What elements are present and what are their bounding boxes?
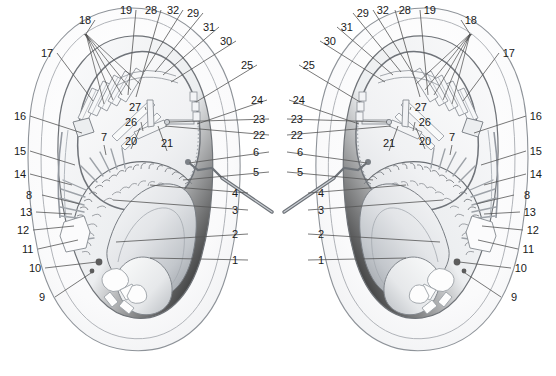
callout-label-25: 25 [241, 59, 253, 71]
callout-label-24: 24 [293, 94, 305, 106]
anatomical-diagram-svg: 1234562223242530312932281918171615148131… [0, 0, 556, 376]
callout-label-31: 31 [341, 21, 353, 33]
callout-label-28: 28 [399, 4, 411, 16]
callout-label-7: 7 [449, 131, 455, 143]
callout-label-22: 22 [291, 129, 303, 141]
callout-label-20: 20 [125, 135, 137, 147]
callout-label-17: 17 [503, 47, 515, 59]
callout-label-8: 8 [524, 189, 530, 201]
callout-label-32: 32 [377, 4, 389, 16]
callout-label-13: 13 [20, 206, 32, 218]
callout-label-5: 5 [297, 166, 303, 178]
callout-label-19: 19 [120, 4, 132, 16]
callout-label-16: 16 [530, 110, 542, 122]
callout-label-23: 23 [253, 113, 265, 125]
callout-label-24: 24 [251, 94, 263, 106]
callout-label-2: 2 [232, 228, 238, 240]
callout-label-15: 15 [530, 145, 542, 157]
left-specimen-panel [28, 8, 272, 351]
callout-label-18: 18 [465, 14, 477, 26]
callout-label-16: 16 [14, 110, 26, 122]
callout-label-15: 15 [14, 145, 26, 157]
callout-label-28: 28 [145, 4, 157, 16]
callout-label-10: 10 [29, 262, 41, 274]
callout-label-23: 23 [291, 113, 303, 125]
callout-label-27: 27 [415, 101, 427, 113]
callout-label-7: 7 [101, 131, 107, 143]
callout-label-12: 12 [17, 224, 29, 236]
callout-label-11: 11 [523, 243, 534, 255]
callout-label-21: 21 [161, 137, 173, 149]
callout-label-29: 29 [187, 7, 199, 19]
callout-label-4: 4 [318, 187, 324, 199]
callout-label-32: 32 [167, 4, 179, 16]
callout-label-14: 14 [14, 168, 26, 180]
right-specimen-panel [284, 8, 528, 351]
callout-label-26: 26 [125, 116, 137, 128]
callout-label-4: 4 [232, 187, 238, 199]
callout-label-29: 29 [357, 7, 369, 19]
callout-label-31: 31 [203, 21, 215, 33]
callout-label-3: 3 [318, 204, 324, 216]
callout-label-18: 18 [79, 14, 91, 26]
callout-label-26: 26 [419, 116, 431, 128]
callout-label-14: 14 [530, 168, 542, 180]
callout-label-25: 25 [303, 59, 315, 71]
callout-label-12: 12 [527, 224, 539, 236]
callout-label-10: 10 [515, 262, 527, 274]
callout-label-13: 13 [524, 206, 536, 218]
callout-label-11: 11 [22, 243, 33, 255]
callout-label-27: 27 [129, 101, 141, 113]
callout-label-6: 6 [297, 146, 303, 158]
callout-label-17: 17 [41, 47, 53, 59]
callout-label-21: 21 [383, 137, 395, 149]
callout-label-1: 1 [232, 254, 238, 266]
callout-label-3: 3 [232, 204, 238, 216]
callout-label-8: 8 [26, 189, 32, 201]
callout-label-22: 22 [253, 129, 265, 141]
callout-label-19: 19 [424, 4, 436, 16]
callout-label-2: 2 [318, 228, 324, 240]
callout-label-9: 9 [39, 291, 45, 303]
callout-label-30: 30 [220, 35, 232, 47]
callout-label-9: 9 [511, 291, 517, 303]
callout-label-1: 1 [318, 254, 324, 266]
callout-label-6: 6 [253, 146, 259, 158]
callout-label-30: 30 [324, 35, 336, 47]
figure-container: 1234562223242530312932281918171615148131… [0, 0, 556, 376]
callout-label-5: 5 [253, 166, 259, 178]
callout-label-20: 20 [419, 135, 431, 147]
